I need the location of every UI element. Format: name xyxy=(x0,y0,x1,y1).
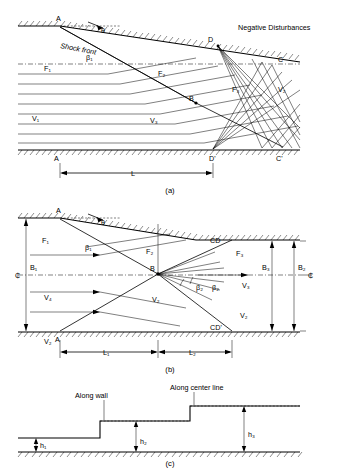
label-a-F3: F₃ xyxy=(232,85,239,94)
label-a-V1: V₁ xyxy=(32,114,40,123)
figure-container: A θ Shock front β₁ F₁ F₂ F₃ D C Negative… xyxy=(0,0,362,468)
label-b-centerline-right: ₵ xyxy=(308,271,313,280)
label-b-B3: B₃ xyxy=(262,263,270,272)
label-b-beta2b: β₂ xyxy=(212,283,219,292)
label-b-V3: V₃ xyxy=(242,281,250,290)
panel-b-lower-wall-hatch xyxy=(18,332,298,337)
label-b-V2-right: V₂ xyxy=(240,311,248,320)
label-a-C: C xyxy=(278,55,283,64)
caption-panel-c: (c) xyxy=(166,459,175,468)
label-b-V2-bottom: V₂ xyxy=(44,337,52,346)
label-b-V2-mid: V₂ xyxy=(152,295,160,304)
panel-a: A θ Shock front β₁ F₁ F₂ F₃ D C Negative… xyxy=(18,14,311,195)
label-a-F1: F₁ xyxy=(44,64,51,73)
label-a-B: B xyxy=(189,94,194,103)
label-b-V4: V₄ xyxy=(44,293,52,302)
label-b-L2: L₂ xyxy=(189,348,196,357)
label-c-h1: h₁ xyxy=(40,441,47,450)
label-b-L1: L₁ xyxy=(103,348,110,357)
label-b-F2: F₂ xyxy=(146,247,153,256)
label-a-Cprime: C' xyxy=(276,154,283,163)
label-b-beta1: β₁ xyxy=(85,243,92,252)
label-c-along-center-line: Along center line xyxy=(170,383,224,392)
label-b-beta2: β₂ xyxy=(196,283,203,292)
panel-a-lower-wall-hatch xyxy=(18,150,298,155)
label-a-A-top: A xyxy=(56,14,61,23)
label-b-B1: B₁ xyxy=(30,263,38,272)
label-a-D: D xyxy=(208,35,213,44)
label-b-CD: CD xyxy=(210,236,220,245)
label-a-Dprime: D' xyxy=(209,154,216,163)
panel-c: Along wall Along center line h₁ h₂ h₃ (c… xyxy=(18,383,302,468)
label-c-h3: h₃ xyxy=(248,430,255,439)
diagram-svg: A θ Shock front β₁ F₁ F₂ F₃ D C Negative… xyxy=(0,0,362,468)
panel-c-baseline-hatch xyxy=(18,452,302,457)
label-b-A-top: A xyxy=(56,206,61,215)
label-c-along-wall: Along wall xyxy=(75,391,108,400)
caption-panel-a: (a) xyxy=(165,186,175,195)
label-a-beta1: β₁ xyxy=(86,53,93,62)
label-a-V3: V₃ xyxy=(150,116,158,125)
label-a-F2: F₂ xyxy=(158,69,165,78)
label-b-F3: F₃ xyxy=(236,249,243,258)
label-b-theta: θ xyxy=(101,218,105,227)
label-b-CDprime: CD' xyxy=(210,323,222,332)
label-a-theta: θ xyxy=(101,26,105,35)
label-b-F1: F₁ xyxy=(42,236,49,245)
label-b-A-bottom: A xyxy=(55,335,60,344)
label-a-A-bottom: A xyxy=(54,154,59,163)
label-c-h2: h₂ xyxy=(140,437,147,446)
label-a-negative-disturbances: Negative Disturbances xyxy=(238,23,311,32)
label-a-L: L xyxy=(131,169,135,178)
caption-panel-b: (b) xyxy=(165,365,175,374)
panel-b: A θ β₁ F₁ F₂ F₃ CD CD' B₁ B₂ B₃ B ₵ ₵ β₂… xyxy=(15,206,313,374)
label-a-V2: V₂ xyxy=(278,85,286,94)
label-b-B: B xyxy=(150,264,155,273)
label-b-B2: B₂ xyxy=(298,263,306,272)
label-b-centerline-left: ₵ xyxy=(15,271,20,280)
